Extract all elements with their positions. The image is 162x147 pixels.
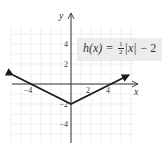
function-graph: x y −42442−2−4 [0,0,162,147]
equation-fraction: 1 2 [118,41,124,56]
equation-rest: − 2 [141,41,157,56]
y-axis-label: y [58,10,64,21]
svg-text:−4: −4 [59,120,68,129]
x-axis-label: x [133,86,139,97]
equation-label: h(x) = 1 2 |x| − 2 [83,41,156,56]
svg-text:2: 2 [64,60,68,69]
equation-abs: |x| [125,41,137,56]
equation-equals: = [106,41,113,56]
svg-text:4: 4 [106,86,110,95]
svg-text:4: 4 [64,40,68,49]
fraction-denominator: 2 [119,49,123,56]
equation-lhs: h(x) [83,41,102,56]
svg-text:2: 2 [86,86,90,95]
svg-text:−4: −4 [24,86,33,95]
